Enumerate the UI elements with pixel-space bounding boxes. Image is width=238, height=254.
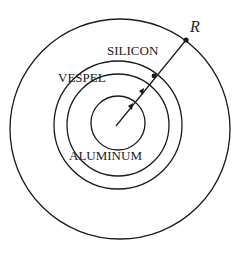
vespel-label: VESPEL xyxy=(58,70,106,85)
radius-endpoint-marker xyxy=(183,37,188,42)
aluminum-label: ALUMINUM xyxy=(69,148,142,163)
radius-label: R xyxy=(189,18,200,35)
silicon-label: SILICON xyxy=(107,43,159,58)
concentric-layers-diagram: R SILICON VESPEL ALUMINUM xyxy=(0,0,238,254)
silicon-boundary-marker xyxy=(152,74,157,79)
